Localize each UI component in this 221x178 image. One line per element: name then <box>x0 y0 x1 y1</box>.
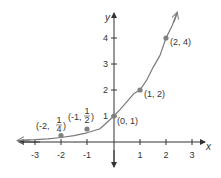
point-label-neg2: (-2, 1 4 ) <box>36 115 66 134</box>
point-label-neg1: (-1, 1 2 ) <box>68 106 94 125</box>
svg-text:): ) <box>91 112 94 122</box>
point-label-1: (1, 2) <box>144 89 165 99</box>
svg-text:2: 2 <box>84 115 89 125</box>
x-tick-label: 1 <box>137 150 142 160</box>
graph-canvas: -3 -2 -1 1 2 3 1 2 3 4 x y (-2, 1 4 ) (-… <box>0 0 221 178</box>
data-point <box>163 35 168 40</box>
x-tick-label: -2 <box>57 150 65 160</box>
curve-left-arrow <box>18 140 30 141</box>
y-tick-label: 1 <box>103 111 108 121</box>
y-tick-label: 3 <box>103 59 108 69</box>
data-point <box>111 113 116 118</box>
x-tick-label: 3 <box>189 150 194 160</box>
svg-text:(-2,: (-2, <box>36 121 50 131</box>
data-point <box>84 126 89 131</box>
data-point <box>137 87 142 92</box>
x-axis-label: x <box>205 141 212 152</box>
x-tick-label: -3 <box>31 150 39 160</box>
y-tick-label: 4 <box>103 33 108 43</box>
exponential-graph: -3 -2 -1 1 2 3 1 2 3 4 x y (-2, 1 4 ) (-… <box>0 0 221 178</box>
svg-text:(-1,: (-1, <box>68 112 82 122</box>
y-axis-label: y <box>104 12 111 23</box>
curve-top-arrow <box>174 13 177 22</box>
x-tick-label: -1 <box>83 150 91 160</box>
point-label-2: (2, 4) <box>170 37 191 47</box>
y-tick-label: 2 <box>103 85 108 95</box>
svg-text:): ) <box>63 121 66 131</box>
point-label-0: (0, 1) <box>117 116 138 126</box>
svg-text:4: 4 <box>56 124 61 134</box>
x-tick-label: 2 <box>163 150 168 160</box>
